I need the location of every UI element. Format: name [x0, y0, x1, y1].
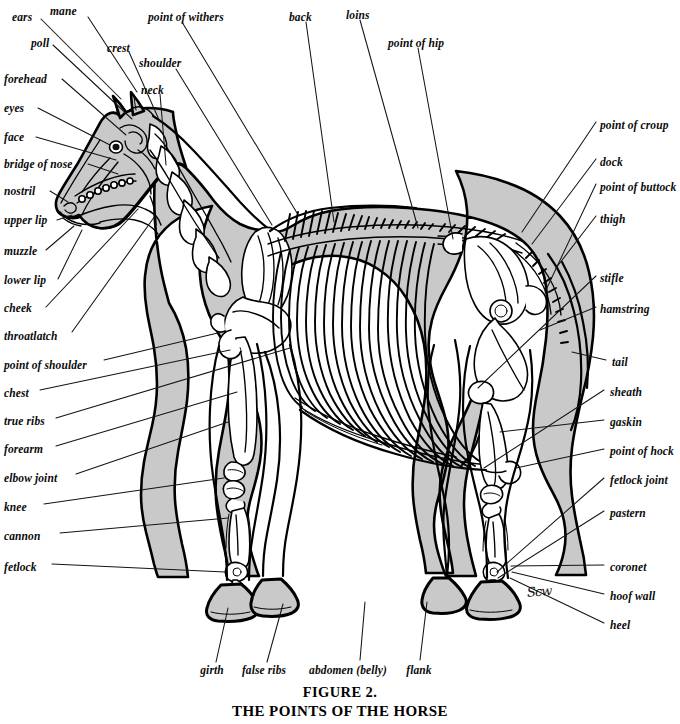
- label-forehead[interactable]: forehead: [4, 74, 47, 86]
- label-point-of-withers[interactable]: point of withers: [148, 12, 224, 24]
- label-lower-lip[interactable]: lower lip: [4, 275, 46, 287]
- label-chest[interactable]: chest: [4, 388, 29, 400]
- leader-fetlock: [52, 564, 225, 572]
- label-abdomen-belly[interactable]: abdomen (belly): [309, 665, 387, 677]
- label-shoulder[interactable]: shoulder: [139, 58, 181, 70]
- leader-back: [306, 22, 334, 222]
- label-face[interactable]: face: [4, 132, 24, 144]
- label-dock[interactable]: dock: [600, 157, 623, 169]
- leader-pastern: [498, 511, 604, 578]
- label-cheek[interactable]: cheek: [4, 303, 32, 315]
- leader-flank: [420, 602, 427, 660]
- label-cannon[interactable]: cannon: [4, 531, 40, 543]
- label-point-of-hock[interactable]: point of hock: [610, 446, 674, 458]
- leader-fetlock-joint: [497, 478, 604, 572]
- label-mane[interactable]: mane: [50, 6, 77, 18]
- label-muzzle[interactable]: muzzle: [4, 246, 37, 258]
- label-forearm[interactable]: forearm: [4, 444, 43, 456]
- artist-signature: Scw: [527, 583, 552, 600]
- label-point-of-buttock[interactable]: point of buttock: [600, 182, 676, 194]
- figure-number: FIGURE 2.: [303, 684, 378, 701]
- label-coronet[interactable]: coronet: [610, 562, 646, 574]
- label-fetlock[interactable]: fetlock: [4, 562, 37, 574]
- label-elbow-joint[interactable]: elbow joint: [4, 473, 57, 485]
- label-ears[interactable]: ears: [12, 12, 32, 24]
- label-hoof-wall[interactable]: hoof wall: [610, 591, 655, 603]
- label-tail[interactable]: tail: [612, 357, 628, 369]
- figure-points-of-the-horse: .body{fill:#c9c9c9;stroke:#000;stroke-wi…: [0, 0, 680, 724]
- hock-tarsus: [480, 485, 502, 518]
- label-true-ribs[interactable]: true ribs: [4, 416, 45, 428]
- label-hamstring[interactable]: hamstring: [600, 304, 649, 316]
- knee-carpus: [223, 462, 245, 513]
- label-stifle[interactable]: stifle: [600, 273, 624, 285]
- label-thigh[interactable]: thigh: [600, 214, 625, 226]
- leader-coronet: [511, 565, 604, 566]
- label-nostril[interactable]: nostril: [4, 186, 35, 198]
- label-knee[interactable]: knee: [4, 502, 27, 514]
- horse-anatomy-illustration: .body{fill:#c9c9c9;stroke:#000;stroke-wi…: [0, 0, 680, 724]
- label-crest[interactable]: crest: [107, 43, 130, 55]
- label-upper-lip[interactable]: upper lip: [4, 215, 47, 227]
- leader-knee: [44, 478, 224, 504]
- label-neck[interactable]: neck: [141, 85, 164, 97]
- label-fetlock-joint[interactable]: fetlock joint: [610, 475, 668, 487]
- label-sheath[interactable]: sheath: [610, 387, 642, 399]
- label-loins[interactable]: loins: [346, 10, 370, 22]
- label-eyes[interactable]: eyes: [4, 103, 24, 115]
- label-back[interactable]: back: [289, 12, 312, 24]
- leader-throatlatch: [72, 216, 155, 332]
- label-pastern[interactable]: pastern: [610, 508, 646, 520]
- label-point-of-hip[interactable]: point of hip: [388, 38, 444, 50]
- label-false-ribs[interactable]: false ribs: [242, 665, 286, 677]
- leader-lower-lip: [58, 230, 82, 279]
- label-bridge-of-nose[interactable]: bridge of nose: [4, 159, 72, 171]
- leader-ears: [41, 19, 121, 99]
- label-point-of-croup[interactable]: point of croup: [600, 120, 669, 132]
- label-girth[interactable]: girth: [200, 665, 224, 677]
- label-throatlatch[interactable]: throatlatch: [4, 331, 58, 343]
- leader-muzzle: [46, 226, 74, 250]
- figure-title: THE POINTS OF THE HORSE: [232, 703, 448, 720]
- leader-loins: [360, 20, 418, 228]
- label-gaskin[interactable]: gaskin: [610, 417, 642, 429]
- label-flank[interactable]: flank: [406, 665, 431, 677]
- leader-abdomen: [360, 602, 365, 660]
- leader-heel: [510, 578, 604, 623]
- label-poll[interactable]: poll: [31, 38, 49, 50]
- label-heel[interactable]: heel: [610, 620, 630, 632]
- label-point-of-shoulder[interactable]: point of shoulder: [4, 360, 87, 372]
